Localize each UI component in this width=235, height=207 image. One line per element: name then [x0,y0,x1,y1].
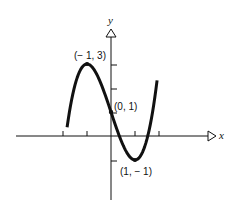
y-axis-arrow-icon [106,29,116,37]
max-point-marker [85,62,89,66]
intercept-point-label: (0, 1) [114,101,137,112]
y-axis-label: y [107,14,113,26]
min-point-label: (1, − 1) [120,166,152,177]
x-axis-arrow-icon [208,131,216,141]
intercept-point-marker [109,110,113,114]
max-point-label: (− 1, 3) [74,50,106,61]
min-point-marker [133,158,137,162]
x-axis-label: x [218,129,224,141]
chart-canvas: x y (− 1, 3) (0, 1) (1, − 1) [0,0,235,207]
